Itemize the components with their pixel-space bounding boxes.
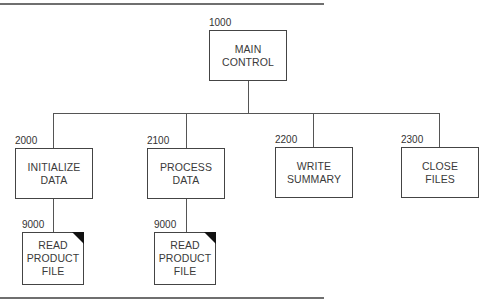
module-label-line: MAIN <box>235 43 262 56</box>
module-process-data: PROCESS DATA <box>147 148 225 199</box>
connector-2000-9000 <box>53 199 54 232</box>
module-read-product-file: READ PRODUCT FILE <box>154 232 216 285</box>
predefined-module-corner-icon <box>72 232 84 244</box>
connector-bus <box>53 113 440 114</box>
module-initialize-data: INITIALIZE DATA <box>15 148 93 199</box>
module-label-line: READ <box>38 239 68 252</box>
module-number-2300: 2300 <box>401 134 423 145</box>
bottom-rule <box>0 297 324 299</box>
connector-root-down <box>248 80 249 114</box>
module-number-1000: 1000 <box>209 17 231 28</box>
connector-2200 <box>313 113 314 147</box>
module-label-line: FILE <box>42 265 65 278</box>
module-label-line: PRODUCT <box>159 252 212 265</box>
module-label-line: CONTROL <box>222 56 274 69</box>
module-label-line: WRITE <box>297 160 331 173</box>
module-label-line: CLOSE <box>422 160 458 173</box>
connector-2300 <box>439 113 440 147</box>
module-read-product-file: READ PRODUCT FILE <box>22 232 84 285</box>
module-number-9000: 9000 <box>154 219 176 230</box>
module-label-line: PROCESS <box>160 161 212 174</box>
predefined-module-corner-icon <box>204 232 216 244</box>
connector-2100 <box>186 113 187 148</box>
module-label-line: READ <box>170 239 200 252</box>
module-label-line: DATA <box>173 174 200 187</box>
module-label-line: INITIALIZE <box>28 161 81 174</box>
connector-2000 <box>53 113 54 148</box>
module-label-line: FILES <box>425 173 455 186</box>
module-number-2100: 2100 <box>147 135 169 146</box>
module-number-2000: 2000 <box>15 135 37 146</box>
module-label-line: FILE <box>174 265 197 278</box>
top-rule <box>0 3 324 5</box>
module-label-line: DATA <box>41 174 68 187</box>
module-write-summary: WRITE SUMMARY <box>275 147 353 198</box>
module-number-2200: 2200 <box>275 134 297 145</box>
module-label-line: PRODUCT <box>27 252 80 265</box>
module-number-9000: 9000 <box>22 219 44 230</box>
connector-2100-9000 <box>186 199 187 232</box>
module-main-control: MAIN CONTROL <box>209 30 287 81</box>
module-close-files: CLOSE FILES <box>401 147 479 198</box>
module-label-line: SUMMARY <box>287 173 341 186</box>
